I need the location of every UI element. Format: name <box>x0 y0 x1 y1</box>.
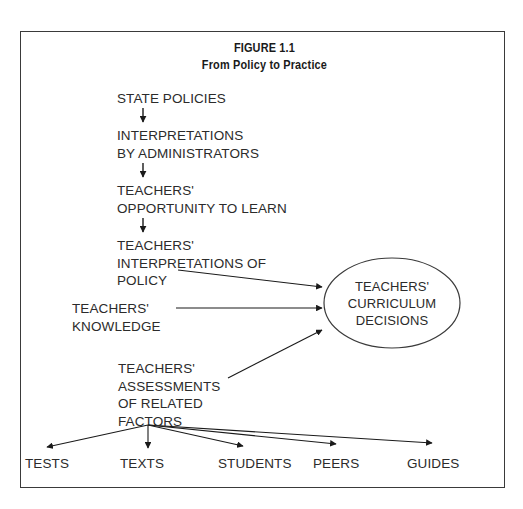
outcome-label-line3: DECISIONS <box>332 312 452 329</box>
node-teachers-opportunity-to-learn: TEACHERS' OPPORTUNITY TO LEARN <box>117 182 287 217</box>
factor-label-peers: PEERS <box>313 456 359 471</box>
figure-container: FIGURE 1.1 From Policy to Practice STATE… <box>0 0 523 509</box>
outcome-label-line1: TEACHERS' <box>332 278 452 295</box>
node-state-policies: STATE POLICIES <box>117 90 226 108</box>
outcome-label-line2: CURRICULUM <box>332 295 452 312</box>
node-teachers-assessments-of-related-factors: TEACHERS' ASSESSMENTS OF RELATED FACTORS <box>118 360 220 430</box>
factor-label-texts: TEXTS <box>120 456 164 471</box>
factor-label-guides: GUIDES <box>407 456 459 471</box>
node-interpretations-by-administrators: INTERPRETATIONS BY ADMINISTRATORS <box>117 127 259 162</box>
node-teachers-knowledge: TEACHERS' KNOWLEDGE <box>72 300 161 335</box>
factor-label-students: STUDENTS <box>218 456 292 471</box>
node-teachers-interpretations-of-policy: TEACHERS' INTERPRETATIONS OF POLICY <box>117 237 266 290</box>
factor-label-tests: TESTS <box>25 456 69 471</box>
arrow-assessments-to-decisions <box>228 330 322 378</box>
